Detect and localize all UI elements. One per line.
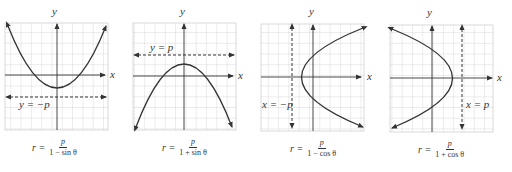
fraction: p 1 − cos θ <box>307 139 336 158</box>
directrix-label: x = p <box>466 98 489 110</box>
x-axis-label: x <box>110 68 115 80</box>
fraction: p 1 − sin θ <box>49 138 77 157</box>
equation-lhs: r = <box>32 142 45 153</box>
x-axis-label: x <box>238 69 243 81</box>
numerator: p <box>189 138 197 148</box>
directrix-label: y = p <box>150 41 173 53</box>
polar-equation: r = p 1 − sin θ <box>32 138 77 157</box>
numerator: p <box>318 139 326 149</box>
numerator: p <box>446 140 454 150</box>
panel-3-graph <box>261 24 364 131</box>
fraction: p 1 + cos θ <box>435 140 464 159</box>
y-axis-label: y <box>52 5 57 17</box>
equation-lhs: r = <box>418 144 431 155</box>
y-axis-label: y <box>180 5 185 17</box>
polar-equation: r = p 1 + sin θ <box>162 138 207 157</box>
x-axis-label: x <box>497 71 502 83</box>
grid <box>5 23 108 130</box>
denominator: 1 − sin θ <box>49 148 77 157</box>
grid <box>390 25 493 132</box>
directrix-label: y = −p <box>19 98 50 110</box>
directrix-label: x = −p <box>262 98 293 110</box>
denominator: 1 + sin θ <box>179 148 207 157</box>
numerator: p <box>59 138 67 148</box>
polar-equation: r = p 1 + cos θ <box>418 140 464 159</box>
denominator: 1 + cos θ <box>435 150 464 159</box>
equation-lhs: r = <box>162 142 175 153</box>
panel-4-graph <box>390 25 493 132</box>
x-axis-label: x <box>367 70 372 82</box>
y-axis-label: y <box>427 6 432 18</box>
panel-1-graph <box>5 23 108 130</box>
grid <box>261 24 364 131</box>
fraction: p 1 + sin θ <box>179 138 207 157</box>
panel-2-graph <box>133 23 236 130</box>
equation-lhs: r = <box>290 143 303 154</box>
y-axis-label: y <box>309 5 314 17</box>
polar-equation: r = p 1 − cos θ <box>290 139 336 158</box>
denominator: 1 − cos θ <box>307 149 336 158</box>
grid <box>133 23 236 130</box>
